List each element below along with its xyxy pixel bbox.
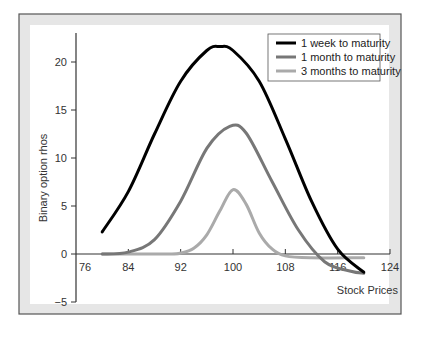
- y-tick-label: 0: [61, 248, 67, 260]
- chart-figure: −505101520768492100108116124 Binary opti…: [0, 0, 436, 344]
- x-tick-label: 108: [276, 261, 294, 273]
- y-tick-label: 15: [55, 104, 67, 116]
- legend-label-3-months: 3 months to maturity: [301, 65, 401, 77]
- y-axis-title: Binary option rhos: [37, 133, 49, 222]
- x-tick-label: 76: [79, 261, 91, 273]
- legend-label-1-week: 1 week to maturity: [301, 37, 391, 49]
- x-tick-label: 124: [381, 261, 399, 273]
- y-tick-label: 10: [55, 152, 67, 164]
- x-tick-label: 92: [175, 261, 187, 273]
- x-tick-label: 84: [122, 261, 134, 273]
- legend-label-1-month: 1 month to maturity: [301, 51, 396, 63]
- y-tick-label: 5: [61, 200, 67, 212]
- y-tick-label: 20: [55, 56, 67, 68]
- legend: 1 week to maturity 1 month to maturity 3…: [268, 34, 401, 81]
- x-axis-title: Stock Prices: [337, 284, 399, 296]
- y-tick-label: −5: [54, 296, 67, 308]
- x-tick-label: 100: [224, 261, 242, 273]
